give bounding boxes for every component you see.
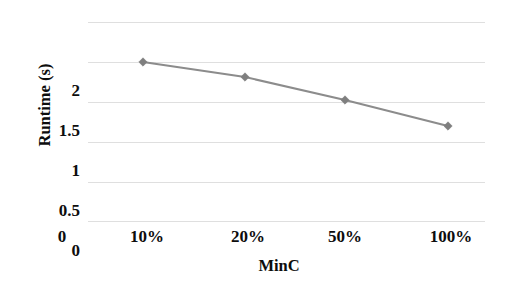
x-axis-tick-labels: 010%20%50%100% (0, 228, 514, 252)
x-axis-title: MinC (0, 256, 514, 276)
data-point-50% (341, 96, 349, 104)
chart-container: Runtime (s) 21.510.50 010%20%50%100% Min… (0, 0, 514, 295)
y-tick-label-0: 2 (36, 82, 80, 99)
y-tick-label-1: 1.5 (36, 122, 80, 139)
data-point-20% (241, 73, 249, 81)
data-point-100% (444, 122, 452, 130)
x-tick-label-2: 20% (231, 228, 265, 245)
x-tick-label-0: 0 (58, 228, 67, 245)
x-tick-label-4: 100% (430, 228, 473, 245)
y-tick-label-3: 0.5 (36, 202, 80, 219)
y-tick-label-2: 1 (36, 162, 80, 179)
x-tick-label-3: 50% (328, 228, 362, 245)
x-tick-label-1: 10% (130, 228, 164, 245)
data-point-10% (139, 58, 147, 66)
data-series-runtime (88, 20, 485, 222)
plot-area (88, 20, 485, 222)
series-line (143, 62, 448, 126)
